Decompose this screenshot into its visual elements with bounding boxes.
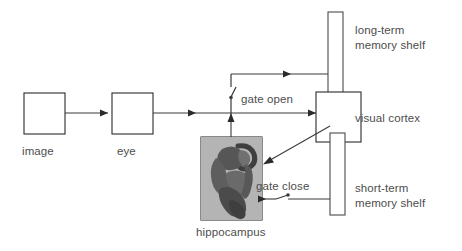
- node-image-label: image: [22, 145, 54, 157]
- node-hippocampus-label: hippocampus: [196, 226, 266, 238]
- diagram-root: image eye gate open long-term memory she…: [0, 0, 462, 251]
- node-visual-cortex-label: visual cortex: [355, 112, 420, 124]
- short-term-shelf-label-line2: memory shelf: [355, 197, 426, 209]
- long-term-shelf-label-line1: long-term: [355, 24, 404, 36]
- long-term-shelf-label-line2: memory shelf: [355, 39, 426, 51]
- node-eye[interactable]: [112, 93, 153, 134]
- short-term-memory-shelf[interactable]: [330, 133, 345, 215]
- node-eye-label: eye: [117, 145, 136, 157]
- gate-close-pivot-dot: [286, 193, 290, 197]
- gate-close-label: gate close: [256, 180, 309, 192]
- short-term-shelf-label-line1: short-term: [355, 182, 408, 194]
- gate-open-label: gate open: [241, 93, 293, 105]
- node-image[interactable]: [24, 93, 65, 134]
- diagram-canvas: image eye gate open long-term memory she…: [0, 0, 462, 251]
- gate-open-pivot-dot: [229, 96, 233, 100]
- hippocampus-anatomy-image: [201, 137, 262, 220]
